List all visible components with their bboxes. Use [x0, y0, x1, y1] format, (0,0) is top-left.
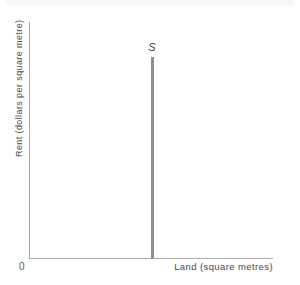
page-edge-artifact	[6, 0, 294, 5]
supply-curve	[151, 57, 154, 259]
y-axis-line	[29, 22, 30, 259]
y-axis-label: Rent (dollars per square metre)	[14, 17, 24, 157]
land-supply-figure: Rent (dollars per square metre) Land (sq…	[0, 0, 300, 285]
origin-label: 0	[19, 261, 25, 272]
x-axis-label: Land (square metres)	[174, 261, 273, 272]
supply-curve-label: S	[145, 41, 159, 53]
